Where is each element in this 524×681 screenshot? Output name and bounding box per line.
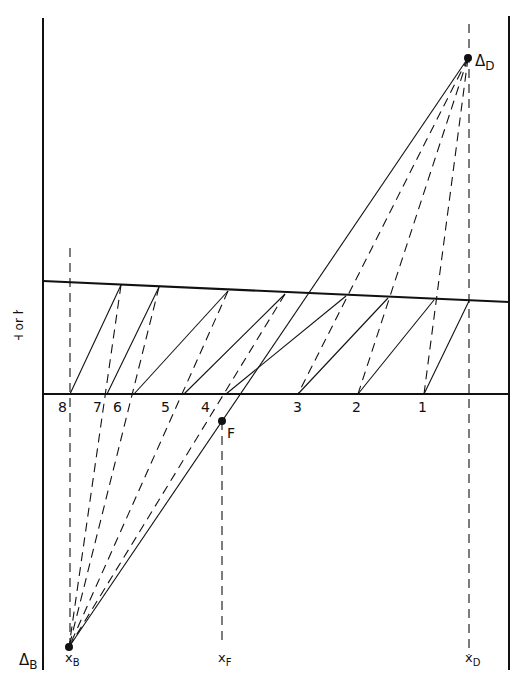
delta-b-label: ΔB bbox=[19, 651, 38, 672]
stage-number-label: 5 bbox=[161, 399, 170, 415]
y-axis-label-text: H or h bbox=[12, 310, 26, 340]
stage-number-label: 8 bbox=[58, 399, 67, 415]
feed-point bbox=[218, 417, 226, 425]
feed-label: F bbox=[227, 425, 235, 441]
stage-number-label: 2 bbox=[352, 399, 361, 415]
overall-balance-line bbox=[69, 58, 468, 647]
tie-lines bbox=[69, 58, 469, 647]
stripping-operating-line bbox=[69, 287, 159, 647]
ponchon-savarit-diagram: ΔDΔBFxBxFxD87654321 bbox=[0, 0, 524, 681]
saturated-vapor-line bbox=[43, 281, 509, 302]
tie-line bbox=[226, 296, 346, 394]
rectifying-operating-line bbox=[298, 58, 468, 394]
rectifying-operating-line bbox=[358, 58, 468, 394]
delta-d-point bbox=[464, 54, 472, 62]
x-d-label: xD bbox=[465, 650, 481, 668]
tie-line bbox=[70, 285, 121, 394]
x-b-label: xB bbox=[65, 650, 80, 668]
y-axis-label: H or h bbox=[8, 310, 28, 340]
delta-d-label: ΔD bbox=[475, 52, 495, 73]
stage-number-label: 6 bbox=[113, 399, 122, 415]
x-f-label: xF bbox=[218, 650, 232, 668]
tie-line bbox=[184, 294, 285, 394]
stage-number-label: 4 bbox=[201, 399, 210, 415]
rectifying-operating-line bbox=[424, 58, 468, 394]
tie-line bbox=[134, 291, 228, 394]
stage-number-label: 7 bbox=[93, 399, 102, 415]
stage-number-label: 1 bbox=[418, 399, 427, 415]
tie-line bbox=[107, 287, 159, 394]
tie-line bbox=[298, 298, 388, 394]
operating-lines bbox=[69, 24, 469, 655]
tie-line bbox=[424, 301, 469, 394]
stage-number-label: 3 bbox=[293, 399, 302, 415]
stage-labels: ΔDΔBFxBxFxD87654321 bbox=[19, 52, 495, 672]
enthalpy-curves bbox=[43, 281, 509, 394]
tie-line bbox=[358, 300, 434, 394]
